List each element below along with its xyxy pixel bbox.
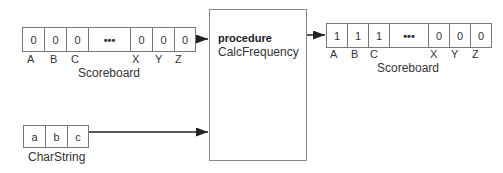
- letter-label: Z: [175, 53, 182, 65]
- scoreboard-cell-x: 0: [131, 28, 153, 51]
- scoreboard-cell-z: 0: [471, 24, 491, 47]
- char-cell: c: [68, 126, 88, 147]
- output-scoreboard: 1 1 1 ••• 0 0 0: [326, 23, 492, 48]
- letter-label: X: [430, 48, 437, 60]
- letter-label: C: [71, 53, 79, 65]
- char-string: a b c: [23, 125, 89, 148]
- letter-label: Z: [472, 48, 479, 60]
- scoreboard-cell-c: 1: [369, 24, 390, 47]
- scoreboard-cell-ellipsis: •••: [89, 28, 131, 51]
- scoreboard-cell-x: 0: [429, 24, 450, 47]
- letter-label: A: [27, 53, 34, 65]
- procedure-keyword: procedure: [218, 32, 272, 44]
- letter-label: C: [370, 48, 378, 60]
- letter-label: A: [330, 48, 337, 60]
- char-string-caption: CharString: [28, 150, 85, 164]
- input-scoreboard: 0 0 0 ••• 0 0 0: [22, 27, 196, 52]
- input-scoreboard-caption: Scoreboard: [78, 66, 140, 80]
- scoreboard-cell-ellipsis: •••: [390, 24, 429, 47]
- scoreboard-cell-b: 1: [348, 24, 369, 47]
- scoreboard-cell-z: 0: [175, 28, 195, 51]
- procedure-name: CalcFrequency: [218, 45, 299, 59]
- char-cell: a: [24, 126, 46, 147]
- scoreboard-cell-b: 0: [45, 28, 67, 51]
- char-cell: b: [46, 126, 68, 147]
- scoreboard-cell-y: 0: [153, 28, 175, 51]
- letter-label: B: [351, 48, 358, 60]
- scoreboard-cell-y: 0: [450, 24, 471, 47]
- scoreboard-cell-a: 1: [327, 24, 348, 47]
- scoreboard-cell-c: 0: [67, 28, 89, 51]
- scoreboard-cell-a: 0: [23, 28, 45, 51]
- output-scoreboard-caption: Scoreboard: [377, 61, 439, 75]
- letter-label: B: [50, 53, 57, 65]
- letter-label: Y: [155, 53, 162, 65]
- letter-label: X: [132, 53, 139, 65]
- letter-label: Y: [451, 48, 458, 60]
- procedure-box: procedure CalcFrequency: [209, 9, 307, 161]
